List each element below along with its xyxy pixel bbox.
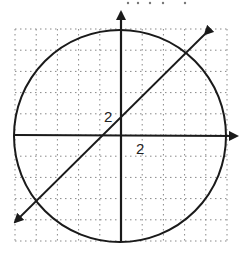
graph-canvas: 2 2	[0, 0, 239, 257]
x-axis	[15, 135, 237, 136]
y-tick-label: 2	[104, 108, 112, 125]
top-cropped-text	[127, 2, 186, 4]
x-tick-label: 2	[136, 140, 144, 157]
coordinate-graph: 2 2	[0, 0, 239, 257]
